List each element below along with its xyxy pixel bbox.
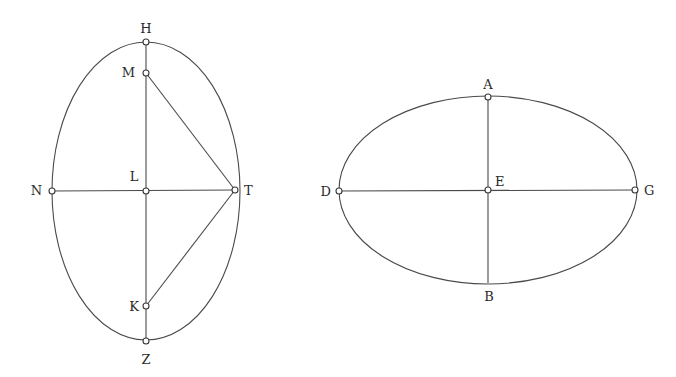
point-K-label: K [129,299,139,314]
point-H-marker [143,39,149,45]
point-G-marker [632,187,638,193]
segment-KT [146,190,235,306]
point-E-label: E [495,174,505,189]
point-E-marker [485,187,491,193]
point-N-marker [49,188,55,194]
point-T-label: T [244,183,253,198]
point-L-label: L [130,169,139,184]
point-H-label: H [140,21,151,36]
point-B-label: B [484,289,494,304]
point-T-marker [232,187,238,193]
point-M-marker [143,70,149,76]
geometry-diagram: HMNLTKZ ADEGB [0,0,676,377]
point-Z-marker [143,338,149,344]
point-Z-label: Z [141,352,150,367]
point-M-label: M [122,65,135,80]
vertical-ellipse-figure: HMNLTKZ [31,21,253,367]
horizontal-ellipse-figure: ADEGB [321,77,655,304]
point-L-marker [143,188,149,194]
point-K-marker [143,303,149,309]
point-A-marker [485,94,491,100]
point-A-label: A [482,77,493,92]
point-N-label: N [31,183,42,198]
point-G-label: G [644,183,654,198]
point-D-marker [336,188,342,194]
segment-MT [146,73,235,190]
point-D-label: D [321,184,331,199]
